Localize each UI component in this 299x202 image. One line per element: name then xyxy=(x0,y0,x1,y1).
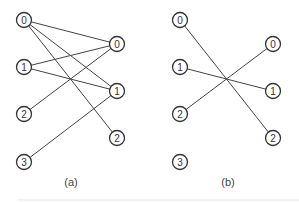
svg-text:1: 1 xyxy=(114,86,120,97)
svg-text:1: 1 xyxy=(270,86,276,97)
left-node-3: 3 xyxy=(173,155,188,170)
left-node-1: 1 xyxy=(173,60,188,75)
bipartite-diagram: 0123012 0123012 (a) (b) xyxy=(0,0,299,202)
right-node-1: 1 xyxy=(110,84,125,99)
svg-text:0: 0 xyxy=(21,15,27,26)
right-node-0: 0 xyxy=(266,37,281,52)
edge xyxy=(24,44,117,67)
panel-a: 0123012 xyxy=(17,13,125,170)
caption-b: (b) xyxy=(221,176,234,188)
svg-text:1: 1 xyxy=(21,62,27,73)
svg-text:2: 2 xyxy=(114,133,120,144)
right-node-1: 1 xyxy=(266,84,281,99)
left-node-2: 2 xyxy=(173,107,188,122)
edge xyxy=(24,20,117,44)
svg-text:2: 2 xyxy=(270,133,276,144)
svg-text:3: 3 xyxy=(177,157,183,168)
left-node-0: 0 xyxy=(17,13,32,28)
left-node-0: 0 xyxy=(173,13,188,28)
edge xyxy=(24,91,117,162)
svg-text:0: 0 xyxy=(177,15,183,26)
left-node-1: 1 xyxy=(17,60,32,75)
svg-text:0: 0 xyxy=(270,39,276,50)
caption-a: (a) xyxy=(64,176,77,188)
svg-text:2: 2 xyxy=(177,109,183,120)
right-node-2: 2 xyxy=(110,131,125,146)
svg-text:1: 1 xyxy=(177,62,183,73)
edge xyxy=(180,44,273,114)
edge xyxy=(24,44,117,114)
panel-b: 0123012 xyxy=(173,13,281,170)
left-node-2: 2 xyxy=(17,107,32,122)
svg-text:3: 3 xyxy=(21,157,27,168)
left-node-3: 3 xyxy=(17,155,32,170)
right-node-0: 0 xyxy=(110,37,125,52)
svg-text:0: 0 xyxy=(114,39,120,50)
svg-text:2: 2 xyxy=(21,109,27,120)
right-node-2: 2 xyxy=(266,131,281,146)
